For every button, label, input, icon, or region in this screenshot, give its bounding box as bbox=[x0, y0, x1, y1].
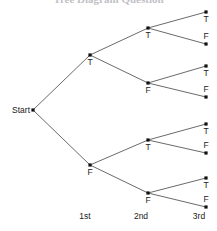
tree-node-label-1st-t: T bbox=[87, 58, 92, 67]
tree-node-label-2nd-t: T bbox=[145, 143, 150, 152]
edge-layer bbox=[33, 12, 206, 207]
start-node-dot bbox=[31, 108, 34, 111]
tree-branch-edge bbox=[148, 83, 206, 97]
tree-branch-edge bbox=[33, 55, 90, 110]
tree-node-label-2nd-f: F bbox=[145, 86, 150, 95]
tree-branch-edge bbox=[90, 28, 148, 55]
tree-branch-edge bbox=[148, 140, 206, 153]
tree-graph-svg bbox=[0, 0, 217, 231]
tree-node-label-3rd-f: F bbox=[203, 32, 208, 41]
tree-node-label-2nd-f: F bbox=[145, 196, 150, 205]
tree-node-dot-3rd-f bbox=[204, 42, 207, 45]
tree-node-label-3rd-t: T bbox=[203, 15, 208, 24]
tree-branch-edge bbox=[90, 55, 148, 83]
tree-node-label-1st-f: F bbox=[87, 168, 92, 177]
tree-node-dot-3rd-f bbox=[204, 205, 207, 208]
tree-branch-edge bbox=[90, 165, 148, 193]
stage-label-1st: 1st bbox=[79, 212, 90, 221]
tree-diagram-figure: Tree Diagram Question StartTFTFTFTFTFTFT… bbox=[0, 0, 217, 231]
tree-branch-edge bbox=[148, 66, 206, 83]
tree-node-dot-3rd-f bbox=[204, 95, 207, 98]
tree-node-label-3rd-t: T bbox=[203, 181, 208, 190]
tree-node-label-3rd-f: F bbox=[203, 141, 208, 150]
tree-branch-edge bbox=[148, 124, 206, 140]
tree-node-label-3rd-f: F bbox=[203, 195, 208, 204]
tree-node-label-2nd-t: T bbox=[145, 31, 150, 40]
stage-label-3rd: 3rd bbox=[193, 212, 205, 221]
tree-node-label-3rd-t: T bbox=[203, 69, 208, 78]
tree-branch-edge bbox=[33, 110, 90, 165]
tree-node-label-3rd-f: F bbox=[203, 85, 208, 94]
tree-node-dot-3rd-f bbox=[204, 151, 207, 154]
tree-branch-edge bbox=[148, 178, 206, 193]
stage-label-2nd: 2nd bbox=[134, 212, 148, 221]
tree-branch-edge bbox=[148, 193, 206, 207]
start-node-label: Start bbox=[12, 106, 30, 115]
tree-branch-edge bbox=[148, 12, 206, 28]
tree-branch-edge bbox=[148, 28, 206, 44]
tree-branch-edge bbox=[90, 140, 148, 165]
tree-node-label-3rd-t: T bbox=[203, 127, 208, 136]
